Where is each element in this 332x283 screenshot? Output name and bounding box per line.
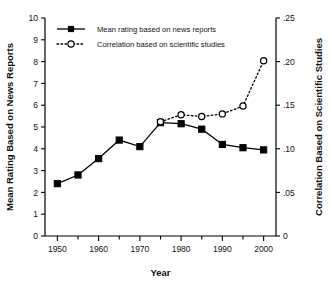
right-axis-tick-label: .25	[283, 13, 295, 23]
data-point-marker	[199, 113, 205, 119]
left-axis-tick-label: 6	[33, 100, 38, 110]
legend-swatch-marker-0	[68, 26, 74, 32]
left-axis-tick-label: 2	[33, 188, 38, 198]
left-axis-tick-label: 7	[33, 79, 38, 89]
left-axis-tick-label: 8	[33, 57, 38, 67]
x-axis-tick-label: 1960	[89, 244, 108, 254]
data-point-marker	[219, 111, 225, 117]
left-axis-tick-label: 0	[33, 231, 38, 241]
data-point-marker	[261, 147, 267, 153]
legend-label-1: Correlation based on scientific studies	[97, 40, 225, 49]
left-axis-tick-label: 4	[33, 144, 38, 154]
data-point-marker	[178, 121, 184, 127]
x-axis-title: Year	[150, 267, 170, 278]
legend-label-0: Mean rating based on news reports	[97, 25, 216, 34]
data-point-marker	[75, 172, 81, 178]
right-axis-tick-label: .10	[283, 144, 295, 154]
series-line-1	[161, 61, 264, 122]
data-point-marker	[240, 145, 246, 151]
x-axis-tick-label: 1990	[213, 244, 232, 254]
x-axis-tick-label: 1980	[172, 244, 191, 254]
left-axis-tick-label: 5	[33, 122, 38, 132]
left-axis-tick-label: 10	[29, 13, 39, 23]
data-point-marker	[219, 141, 225, 147]
data-point-marker	[261, 58, 267, 64]
right-axis-tick-label: .05	[283, 188, 295, 198]
dual-axis-line-chart: 0123456789100.05.10.15.20.25195019601970…	[0, 0, 332, 283]
data-point-marker	[54, 181, 60, 187]
x-axis-tick-label: 1970	[130, 244, 149, 254]
data-point-marker	[157, 119, 163, 125]
right-axis-tick-label: .15	[283, 100, 295, 110]
data-point-marker	[116, 137, 122, 143]
left-axis-tick-label: 9	[33, 35, 38, 45]
data-point-marker	[96, 156, 102, 162]
data-point-marker	[199, 126, 205, 132]
data-point-marker	[240, 103, 246, 109]
right-axis-tick-label: 0	[283, 231, 288, 241]
left-axis-tick-label: 3	[33, 166, 38, 176]
chart-figure: 0123456789100.05.10.15.20.25195019601970…	[0, 0, 332, 283]
x-axis-tick-label: 2000	[254, 244, 273, 254]
right-axis-tick-label: .20	[283, 57, 295, 67]
y-axis-title: Mean Rating Based on News Reports	[4, 43, 15, 211]
left-axis-tick-label: 1	[33, 209, 38, 219]
x-axis-tick-label: 1950	[48, 244, 67, 254]
series-line-0	[57, 123, 263, 184]
y2-axis-title: Correlation Based on Scientific Studies	[313, 38, 324, 216]
data-point-marker	[137, 144, 143, 150]
data-point-marker	[178, 112, 184, 118]
legend-swatch-marker-1	[68, 41, 74, 47]
